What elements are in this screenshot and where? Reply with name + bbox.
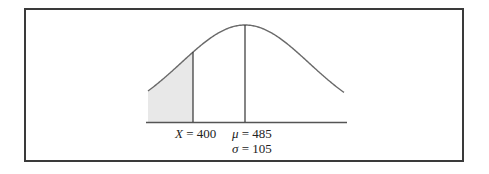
mean-label: μ = 485	[232, 126, 272, 142]
x-value: = 400	[183, 126, 216, 141]
mu-value: = 485	[239, 126, 272, 141]
x-label: X = 400	[175, 126, 216, 142]
sd-label: σ = 105	[232, 141, 272, 157]
shaded-left-tail	[148, 52, 193, 122]
sigma-value: = 105	[238, 141, 271, 156]
x-symbol: X	[175, 126, 183, 141]
